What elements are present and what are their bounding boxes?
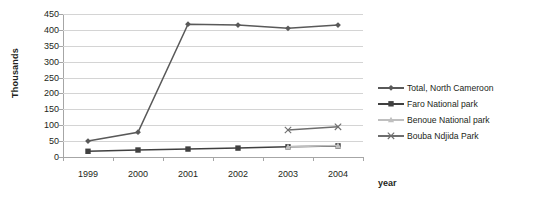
y-axis-tick-label: 450 bbox=[29, 10, 59, 19]
y-axis-tick-label: 0 bbox=[29, 153, 59, 162]
legend-marker-cross-icon bbox=[378, 129, 404, 143]
x-axis-tick bbox=[63, 157, 64, 161]
data-point-diamond bbox=[285, 25, 291, 31]
legend-marker-triangle-icon bbox=[378, 113, 404, 127]
series-line bbox=[285, 142, 341, 149]
series-line bbox=[285, 124, 341, 134]
y-axis-tick-label: 300 bbox=[29, 58, 59, 67]
data-point-square bbox=[388, 101, 393, 106]
y-axis-tick-label: 100 bbox=[29, 121, 59, 130]
legend-label: Faro National park bbox=[407, 99, 478, 109]
y-axis-tick-label: 50 bbox=[29, 137, 59, 146]
legend-marker-glyph bbox=[378, 97, 404, 111]
y-axis-tick-label: 200 bbox=[29, 89, 59, 98]
chart-canvas: Thousands 050100150200250300350400450 19… bbox=[0, 0, 536, 199]
legend-marker-diamond-icon bbox=[378, 81, 404, 95]
chart-legend: Total, North CameroonFaro National parkB… bbox=[378, 80, 530, 144]
x-axis-tick-label: 2002 bbox=[214, 170, 262, 179]
x-axis-tick-label: 1999 bbox=[64, 170, 112, 179]
legend-label: Benoue National park bbox=[407, 115, 490, 125]
y-axis-tick-label: 400 bbox=[29, 26, 59, 35]
legend-item[interactable]: Benoue National park bbox=[378, 112, 530, 128]
legend-marker-square-icon bbox=[378, 97, 404, 111]
x-axis-tick-label: 2004 bbox=[314, 170, 362, 179]
x-axis-tick-label: 2000 bbox=[114, 170, 162, 179]
legend-item[interactable]: Total, North Cameroon bbox=[378, 80, 530, 96]
legend-item[interactable]: Faro National park bbox=[378, 96, 530, 112]
data-point-square bbox=[185, 146, 190, 151]
data-point-square bbox=[235, 145, 240, 150]
data-series-layer bbox=[63, 14, 363, 157]
x-axis-tick-labels: 199920002001200220032004 bbox=[63, 170, 363, 182]
x-axis-tick bbox=[363, 157, 364, 161]
series-line bbox=[85, 21, 341, 144]
y-axis-tick-label: 250 bbox=[29, 74, 59, 83]
data-point-diamond bbox=[185, 21, 191, 27]
data-point-triangle bbox=[388, 117, 394, 123]
y-axis-tick-label: 150 bbox=[29, 105, 59, 114]
y-axis-title-text: Thousands bbox=[10, 48, 20, 98]
x-axis-tick bbox=[313, 157, 314, 161]
data-point-diamond bbox=[335, 22, 341, 28]
y-axis-tick-labels: 050100150200250300350400450 bbox=[26, 14, 59, 157]
y-axis-title: Thousands bbox=[6, 18, 24, 128]
y-axis-tick-label: 350 bbox=[29, 42, 59, 51]
legend-item[interactable]: Bouba Ndjida Park bbox=[378, 128, 530, 144]
data-point-diamond bbox=[235, 22, 241, 28]
data-point-square bbox=[85, 149, 90, 154]
data-point-cross bbox=[388, 133, 394, 139]
x-axis-tick bbox=[163, 157, 164, 161]
legend-marker-glyph bbox=[378, 113, 404, 127]
x-axis-tick-label: 2003 bbox=[264, 170, 312, 179]
x-axis-title: year bbox=[378, 178, 397, 188]
legend-marker-glyph bbox=[378, 129, 404, 143]
x-axis-tick bbox=[113, 157, 114, 161]
x-axis-tick bbox=[213, 157, 214, 161]
data-point-diamond bbox=[388, 85, 394, 91]
data-point-square bbox=[135, 147, 140, 152]
series-line bbox=[85, 143, 340, 154]
data-point-diamond bbox=[135, 129, 141, 135]
x-axis-tick-label: 2001 bbox=[164, 170, 212, 179]
legend-marker-glyph bbox=[378, 81, 404, 95]
data-point-diamond bbox=[85, 138, 91, 144]
legend-label: Total, North Cameroon bbox=[407, 83, 493, 93]
legend-label: Bouba Ndjida Park bbox=[407, 131, 479, 141]
x-axis-tick bbox=[263, 157, 264, 161]
